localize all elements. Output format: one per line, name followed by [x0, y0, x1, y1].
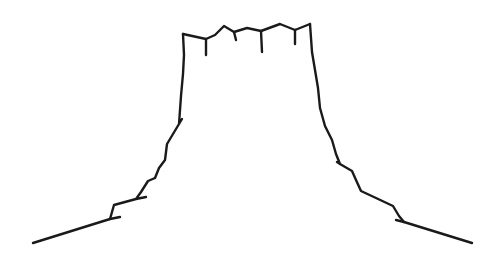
right-slope-line	[310, 24, 404, 222]
top-ridge-line	[183, 24, 310, 39]
mesa-icon	[0, 0, 497, 270]
drawing-canvas	[0, 0, 497, 270]
left-ground-line	[33, 217, 120, 243]
ridge-tick	[261, 31, 262, 52]
right-ground-line	[396, 220, 472, 243]
ridge-tick	[234, 32, 236, 40]
left-slope-line	[110, 34, 184, 219]
